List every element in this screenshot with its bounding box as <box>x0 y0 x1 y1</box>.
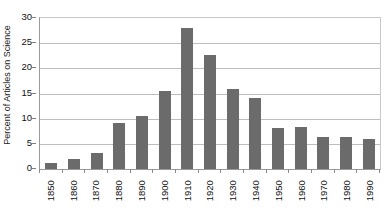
x-axis-tickmark <box>39 169 40 173</box>
y-axis-tickmark <box>32 168 36 169</box>
bar <box>113 123 125 169</box>
bar-series <box>40 18 380 169</box>
bar <box>272 128 284 169</box>
x-axis-tick-label: 1850 <box>46 180 56 201</box>
bar <box>317 137 329 169</box>
bar-slot <box>267 18 290 169</box>
y-axis-tickmark <box>32 42 36 43</box>
y-axis-tickmark <box>32 93 36 94</box>
x-axis-label-slot: 1870 <box>85 174 108 212</box>
bar-slot <box>176 18 199 169</box>
x-axis-label-slot: 1910 <box>176 174 199 212</box>
x-axis-label-slot: 1880 <box>107 174 130 212</box>
x-axis-tickmarks <box>39 169 381 173</box>
x-axis-label-slot: 1970 <box>313 174 336 212</box>
x-axis-tickmark <box>152 169 153 173</box>
x-axis-tick-label: 1860 <box>68 180 78 201</box>
y-axis-tickmark <box>32 67 36 68</box>
bar <box>68 159 80 169</box>
bar-slot <box>312 18 335 169</box>
y-axis-tick-label: 25 <box>21 37 32 47</box>
y-axis-tick-label: 15 <box>21 88 32 98</box>
x-axis-tick-label: 1900 <box>160 180 170 201</box>
bar <box>91 153 103 169</box>
y-axis-title: Percent of Articles on Science <box>0 0 14 170</box>
x-axis-label-slot: 1860 <box>62 174 85 212</box>
x-axis-label-slot: 1960 <box>290 174 313 212</box>
y-axis-tickmark <box>32 17 36 18</box>
x-axis-tick-label: 1910 <box>182 180 192 201</box>
x-axis-tickmark <box>84 169 85 173</box>
bar-slot <box>289 18 312 169</box>
x-axis-label-slot: 1930 <box>221 174 244 212</box>
bar-slot <box>221 18 244 169</box>
x-axis-tickmark <box>62 169 63 173</box>
bar-slot <box>199 18 222 169</box>
bar-slot <box>40 18 63 169</box>
plot-area <box>39 17 381 170</box>
bar-slot <box>335 18 358 169</box>
y-axis-tick-label: 20 <box>21 63 32 73</box>
bar <box>159 91 171 169</box>
x-axis-tick-label: 1960 <box>296 180 306 201</box>
bar-slot <box>244 18 267 169</box>
x-axis-tick-label: 1920 <box>205 180 215 201</box>
bar <box>204 55 216 169</box>
x-axis-label-slot: 1890 <box>130 174 153 212</box>
y-axis-tick-label: 10 <box>21 113 32 123</box>
bar-slot <box>131 18 154 169</box>
x-axis-tickmark <box>288 169 289 173</box>
x-axis-label-slot: 1850 <box>39 174 62 212</box>
y-axis-tick-label: 30 <box>21 12 32 22</box>
y-axis-tick-labels: 051015202530 <box>14 0 36 175</box>
x-axis-tick-label: 1950 <box>274 180 284 201</box>
x-axis-tick-label: 1980 <box>342 180 352 201</box>
x-axis-tickmark <box>107 169 108 173</box>
x-axis-label-slot: 1920 <box>199 174 222 212</box>
bar-slot <box>63 18 86 169</box>
bar-slot <box>153 18 176 169</box>
x-axis: 1850186018701880189019001910192019301940… <box>39 169 381 212</box>
bar <box>340 137 352 169</box>
x-axis-tickmark <box>130 169 131 173</box>
x-axis-tickmark <box>334 169 335 173</box>
bar-slot <box>357 18 380 169</box>
x-axis-tick-label: 1890 <box>137 180 147 201</box>
bar <box>249 98 261 169</box>
x-axis-tickmark <box>311 169 312 173</box>
x-axis-tick-labels: 1850186018701880189019001910192019301940… <box>39 174 381 212</box>
y-axis-tickmark <box>32 118 36 119</box>
x-axis-tick-label: 1970 <box>319 180 329 201</box>
x-axis-tickmark <box>220 169 221 173</box>
x-axis-tickmark <box>175 169 176 173</box>
x-axis-tick-label: 1930 <box>228 180 238 201</box>
x-axis-tickmark <box>243 169 244 173</box>
y-axis-tickmark <box>32 143 36 144</box>
bar <box>136 116 148 169</box>
bar <box>295 127 307 169</box>
x-axis-label-slot: 1990 <box>358 174 381 212</box>
y-axis-title-text: Percent of Articles on Science <box>2 25 12 145</box>
x-axis-tick-label: 1870 <box>91 180 101 201</box>
x-axis-tick-label: 1880 <box>114 180 124 201</box>
x-axis-tickmark <box>379 169 380 173</box>
x-axis-label-slot: 1940 <box>244 174 267 212</box>
x-axis-tick-label: 1990 <box>365 180 375 201</box>
x-axis-tickmark <box>198 169 199 173</box>
x-axis-tickmark <box>356 169 357 173</box>
bar <box>227 89 239 169</box>
bar-chart: Percent of Articles on Science 051015202… <box>0 0 391 212</box>
bar <box>181 28 193 169</box>
x-axis-label-slot: 1950 <box>267 174 290 212</box>
x-axis-tick-label: 1940 <box>251 180 261 201</box>
bar <box>363 139 375 169</box>
bar-slot <box>85 18 108 169</box>
x-axis-tickmark <box>266 169 267 173</box>
bar-slot <box>108 18 131 169</box>
x-axis-label-slot: 1900 <box>153 174 176 212</box>
x-axis-label-slot: 1980 <box>335 174 358 212</box>
